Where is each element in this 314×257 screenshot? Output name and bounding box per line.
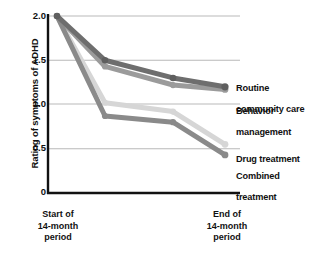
data-point-behavior-2	[170, 82, 176, 88]
legend-combined-line2: treatment	[236, 192, 280, 203]
x-axis-label-end-line2: 14-month	[184, 221, 270, 233]
x-axis-label-start: Start of 14-month period	[15, 209, 101, 244]
adhd-symptoms-line-chart: Rating of symptoms of ADHD 2.0 1.5 1.0 0…	[0, 0, 314, 257]
legend-behavior-line1: Behavior	[236, 106, 291, 117]
legend-label-combined-treatment: Combined treatment	[236, 160, 280, 213]
series-drug-treatment	[54, 13, 229, 148]
data-point-drug-2	[170, 108, 176, 114]
data-point-combined-1	[102, 113, 108, 119]
legend-combined-line1: Combined	[236, 171, 280, 182]
data-point-drug-1	[102, 100, 108, 106]
x-axis-label-end: End of 14-month period	[184, 209, 270, 244]
data-point-routine-0	[54, 13, 61, 20]
legend-routine-line1: Routine	[236, 83, 304, 94]
data-point-routine-2	[170, 75, 177, 82]
x-axis-label-start-line2: 14-month	[15, 221, 101, 233]
series-line-behavior	[57, 16, 225, 89]
data-point-combined-2	[170, 119, 176, 125]
x-axis-label-start-line3: period	[15, 232, 101, 244]
data-point-routine-1	[102, 57, 109, 64]
data-point-drug-3	[222, 141, 229, 148]
x-axis-label-end-line3: period	[184, 232, 270, 244]
legend-label-behavior-management: Behavior management	[236, 95, 291, 148]
data-point-combined-3	[222, 152, 229, 159]
x-axis-label-start-line1: Start of	[15, 209, 101, 221]
legend-behavior-line2: management	[236, 127, 291, 138]
data-point-behavior-1	[102, 63, 108, 69]
data-point-routine-3	[221, 83, 228, 90]
